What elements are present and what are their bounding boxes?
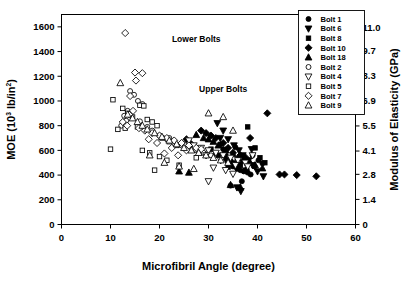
y-tick-label: 1200: [33, 71, 54, 82]
y2-tick-label: 1.4: [363, 194, 377, 205]
legend-label-bolt-2: Bolt 2: [321, 63, 342, 72]
x-tick-label: 50: [301, 232, 312, 243]
scatter-chart-figure: 0102030405060 02004006008001000120014001…: [0, 0, 408, 282]
data-point: [247, 134, 254, 141]
x-axis-ticks: 0102030405060: [59, 225, 361, 243]
x-tick-label: 10: [105, 232, 116, 243]
y-tick-label: 600: [39, 145, 55, 156]
y-tick-label: 1400: [33, 46, 54, 57]
data-point: [117, 79, 124, 85]
y2-tick-label: 2.8: [363, 169, 376, 180]
data-point: [205, 179, 212, 185]
legend-label-bolt-9: Bolt 9: [321, 101, 342, 110]
legend-label-bolt-5: Bolt 5: [321, 82, 343, 91]
data-point: [145, 117, 149, 121]
data-point: [263, 161, 267, 165]
data-point: [140, 148, 144, 152]
legend-label-bolt-4: Bolt 4: [321, 72, 343, 81]
data-point: [260, 174, 267, 180]
data-point: [245, 125, 249, 129]
data-point: [258, 156, 262, 160]
data-point: [293, 172, 300, 179]
data-point: [210, 165, 217, 171]
data-point: [220, 128, 227, 134]
data-point: [222, 168, 229, 174]
legend-marker-bolt-5: [306, 84, 310, 88]
y-tick-label: 1600: [33, 21, 54, 32]
series-bolt-10: [183, 110, 320, 180]
data-point: [155, 123, 159, 127]
legend-marker-bolt-1: [306, 17, 311, 22]
data-point: [131, 69, 138, 76]
x-tick-label: 40: [252, 232, 263, 243]
legend-marker-bolt-8: [306, 36, 310, 40]
y2-axis-title: Modulus of Elasticity (GPa): [388, 48, 400, 191]
y2-tick-label: 4.1: [363, 145, 377, 156]
y-axis-ticks: 02004006008001000120014001600: [33, 21, 61, 230]
annotation-upper-bolts: Upper Bolts: [199, 84, 247, 94]
y-tick-label: 800: [39, 120, 55, 131]
data-point: [281, 171, 288, 178]
data-point: [253, 146, 257, 150]
legend-marker-bolt-2: [306, 65, 311, 70]
data-point: [230, 171, 237, 177]
x-tick-label: 60: [350, 232, 361, 243]
x-tick-label: 0: [59, 232, 64, 243]
data-point: [111, 98, 115, 102]
data-point: [152, 168, 156, 172]
data-point: [139, 70, 146, 77]
y-tick-label: 200: [39, 194, 55, 205]
y-tick-label: 1000: [33, 95, 54, 106]
plot-annotations: Lower BoltsUpper Bolts: [172, 34, 248, 94]
data-point: [121, 106, 125, 110]
x-tick-label: 20: [154, 232, 165, 243]
data-point: [230, 127, 237, 133]
y-axis-title: MOE (103 lb/in2): [5, 79, 17, 160]
data-point: [264, 110, 271, 117]
y-tick-label: 400: [39, 169, 55, 180]
data-point: [220, 113, 227, 119]
legend-label-bolt-8: Bolt 8: [321, 34, 342, 43]
y2-tick-label: 11.0: [363, 22, 381, 33]
legend-label-bolt-7: Bolt 7: [321, 92, 342, 101]
x-tick-label: 30: [203, 232, 214, 243]
data-point: [214, 121, 221, 127]
annotation-lower-bolts: Lower Bolts: [172, 34, 221, 44]
data-point: [108, 147, 112, 151]
x-axis-title: Microfibril Angle (degree): [142, 260, 275, 272]
data-points-layer: [108, 29, 320, 194]
y-tick-label: 0: [49, 219, 54, 230]
chart-legend: Bolt 1Bolt 6Bolt 8Bolt 10Bolt 18Bolt 2Bo…: [299, 11, 365, 115]
chart-canvas: 0102030405060 02004006008001000120014001…: [0, 0, 408, 282]
data-point: [175, 152, 182, 159]
data-point: [194, 156, 198, 160]
data-point: [116, 127, 120, 131]
data-point: [248, 172, 253, 177]
data-point: [122, 29, 129, 36]
data-point: [157, 154, 161, 158]
data-point: [239, 179, 244, 184]
legend-label-bolt-1: Bolt 1: [321, 15, 343, 24]
data-point: [313, 173, 320, 180]
data-point: [190, 165, 197, 171]
data-point: [150, 120, 154, 124]
data-point: [132, 77, 139, 84]
data-point: [205, 110, 212, 116]
data-point: [142, 104, 146, 108]
data-point: [259, 165, 266, 171]
legend-label-bolt-10: Bolt 10: [321, 44, 346, 53]
legend-label-bolt-6: Bolt 6: [321, 24, 342, 33]
data-point: [145, 136, 152, 143]
y2-tick-label: 5.5: [363, 120, 377, 131]
legend-label-bolt-18: Bolt 18: [321, 53, 346, 62]
y2-tick-label: 0: [363, 219, 368, 230]
